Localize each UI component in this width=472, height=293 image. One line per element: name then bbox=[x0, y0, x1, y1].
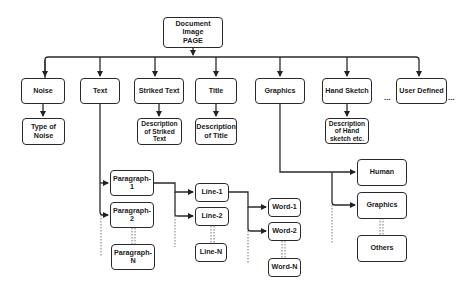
node-word-n: Word-N bbox=[268, 258, 301, 277]
node-title: Title bbox=[195, 78, 237, 104]
root-node-document-image-page: Document Image PAGE bbox=[163, 17, 223, 48]
node-striked-text: Striked Text bbox=[134, 78, 184, 104]
node-description-title: Description of Title bbox=[195, 118, 237, 145]
ellipsis-left: ... bbox=[384, 93, 391, 102]
node-graphics-sub: Graphics bbox=[357, 192, 407, 219]
node-line-1: Line-1 bbox=[195, 183, 229, 202]
node-others: Others bbox=[357, 235, 407, 262]
node-paragraph-1: Paragraph-1 bbox=[110, 170, 154, 196]
node-description-hand-sketch: Description of Hand sketch etc. bbox=[325, 118, 369, 144]
node-paragraph-2: Paragraph-2 bbox=[110, 202, 154, 228]
node-hand-sketch: Hand Sketch bbox=[322, 78, 372, 104]
node-word-2: Word-2 bbox=[268, 222, 301, 241]
node-noise: Noise bbox=[21, 78, 65, 104]
node-description-striked-text: Description of Striked Text bbox=[137, 118, 182, 145]
node-paragraph-n: Paragraph-N bbox=[111, 244, 155, 270]
node-human: Human bbox=[357, 159, 407, 186]
node-word-1: Word-1 bbox=[268, 198, 301, 217]
node-graphics: Graphics bbox=[255, 78, 305, 104]
node-line-2: Line-2 bbox=[195, 207, 229, 226]
node-text: Text bbox=[80, 78, 120, 104]
node-line-n: Line-N bbox=[195, 243, 227, 262]
node-type-of-noise: Type of Noise bbox=[22, 118, 65, 145]
ellipsis-right: ... bbox=[448, 93, 455, 102]
node-user-defined: User Defined bbox=[396, 78, 447, 104]
